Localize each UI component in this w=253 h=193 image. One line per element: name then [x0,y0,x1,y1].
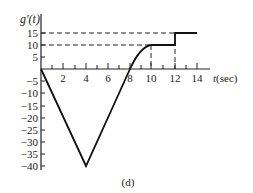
svg-text:−5: −5 [26,75,38,87]
g-prime-curve [41,33,197,166]
svg-text:14: 14 [192,72,204,84]
svg-text:6: 6 [105,72,111,84]
svg-text:10: 10 [27,39,39,51]
x-ticks [52,63,197,69]
svg-text:15: 15 [27,27,39,39]
svg-text:12: 12 [170,72,181,84]
svg-text:4: 4 [83,72,89,84]
x-tick-labels: 2 4 6 8 10 12 14 [60,72,203,84]
svg-text:5: 5 [33,51,39,63]
y-tick-labels: 15 10 5 −5 −10 −15 −20 −25 −30 −35 −40 [21,27,39,172]
svg-text:−10: −10 [21,87,39,99]
svg-text:−40: −40 [21,160,39,172]
svg-text:−15: −15 [21,100,39,112]
svg-text:−30: −30 [21,136,39,148]
figure-caption: (d) [122,176,135,189]
y-axis-label: g'(t) [20,12,40,26]
svg-text:10: 10 [146,72,158,84]
svg-text:−20: −20 [21,112,39,124]
svg-text:−35: −35 [21,148,39,160]
chart: g'(t) 2 4 6 8 10 12 14 t(sec) [0,0,253,193]
x-axis-label: t(sec) [213,72,238,85]
svg-text:2: 2 [60,72,66,84]
svg-text:−25: −25 [21,124,39,136]
